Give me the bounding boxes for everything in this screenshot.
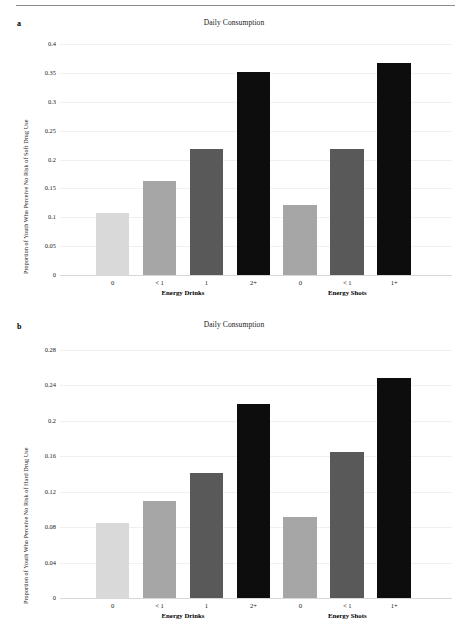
bar <box>377 378 411 598</box>
bar <box>330 149 364 275</box>
x-axis-tick-label: 0 <box>280 602 320 609</box>
y-axis-tick-label: 0.2 <box>26 417 56 424</box>
x-axis-tick-label: 0 <box>93 602 133 609</box>
y-axis-tick-label: 0.3 <box>26 98 56 105</box>
y-axis-tick-label: 0.28 <box>26 346 56 353</box>
x-axis-group-label: Energy Drinks <box>138 612 228 619</box>
y-axis-tick-label: 0.35 <box>26 69 56 76</box>
gridline <box>60 275 452 276</box>
panel-a-plot-area: 00.050.10.150.20.250.30.350.40< 112+0< 1… <box>60 44 452 275</box>
y-axis-tick-label: 0.25 <box>26 127 56 134</box>
bar <box>143 501 177 598</box>
panel-b-title: Daily Consumption <box>0 320 468 329</box>
x-axis-tick-label: 0 <box>93 279 133 286</box>
y-axis-tick-label: 0.2 <box>26 156 56 163</box>
chart-panel-a: a Daily Consumption Proportion of Youth … <box>0 18 468 318</box>
x-axis-group-label: Energy Shots <box>302 612 392 619</box>
gridline <box>60 350 452 351</box>
y-axis-tick-label: 0.4 <box>26 40 56 47</box>
x-axis-tick-label: < 1 <box>140 279 180 286</box>
y-axis-tick-label: 0 <box>26 271 56 278</box>
x-axis-tick-label: 2+ <box>233 279 273 286</box>
bar <box>377 63 411 275</box>
chart-panel-b: b Daily Consumption Proportion of Youth … <box>0 318 468 642</box>
x-axis-tick-label: 1+ <box>374 279 414 286</box>
bar <box>96 523 130 598</box>
x-axis-tick-label: < 1 <box>140 602 180 609</box>
x-axis-tick-label: 1 <box>186 602 226 609</box>
panel-a-y-axis-label: Proportion of Youth Who Perceive No Risk… <box>22 120 29 275</box>
x-axis-group-label: Energy Shots <box>302 289 392 296</box>
panel-a-title: Daily Consumption <box>0 18 468 27</box>
x-axis-tick-label: 2+ <box>233 602 273 609</box>
y-axis-tick-label: 0.04 <box>26 559 56 566</box>
y-axis-tick-label: 0.24 <box>26 381 56 388</box>
bar <box>190 149 224 275</box>
bar <box>143 181 177 275</box>
x-axis-tick-label: 0 <box>280 279 320 286</box>
x-axis-tick-label: < 1 <box>327 279 367 286</box>
y-axis-tick-label: 0.05 <box>26 242 56 249</box>
bar <box>283 205 317 275</box>
gridline <box>60 598 452 599</box>
y-axis-tick-label: 0.08 <box>26 523 56 530</box>
x-axis-tick-label: 1 <box>186 279 226 286</box>
y-axis-tick-label: 0.16 <box>26 452 56 459</box>
bar <box>283 517 317 598</box>
x-axis-tick-label: 1+ <box>374 602 414 609</box>
y-axis-tick-label: 0 <box>26 594 56 601</box>
panel-b-plot-area: 00.040.080.120.160.20.240.280< 112+0< 11… <box>60 350 452 598</box>
y-axis-tick-label: 0.1 <box>26 213 56 220</box>
gridline <box>60 44 452 45</box>
y-axis-tick-label: 0.12 <box>26 488 56 495</box>
x-axis-group-label: Energy Drinks <box>138 289 228 296</box>
y-axis-tick-label: 0.15 <box>26 184 56 191</box>
header-rule <box>16 5 455 6</box>
bar <box>237 72 271 275</box>
bar <box>330 452 364 598</box>
bar <box>96 213 130 275</box>
x-axis-tick-label: < 1 <box>327 602 367 609</box>
bar <box>237 404 271 598</box>
bar <box>190 473 224 598</box>
